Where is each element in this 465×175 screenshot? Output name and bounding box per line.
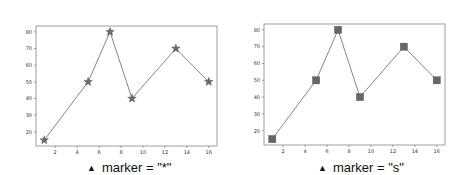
caption-right-text: marker = "s" bbox=[333, 160, 404, 175]
x-tick-label: 2 bbox=[54, 149, 57, 155]
y-tick-label: 70 bbox=[254, 43, 260, 49]
square-marker-icon bbox=[334, 26, 341, 33]
x-tick-label: 10 bbox=[140, 149, 146, 155]
x-tick-label: 8 bbox=[347, 148, 350, 154]
caption-right: ▲marker = "s" bbox=[318, 160, 404, 175]
square-marker-icon bbox=[400, 43, 407, 50]
x-tick-label: 10 bbox=[368, 148, 374, 154]
triangle-bullet-icon: ▲ bbox=[87, 163, 96, 173]
square-marker-icon bbox=[269, 136, 276, 143]
charts: 2468101214162030405060708024681012141620… bbox=[0, 0, 465, 175]
y-tick-label: 20 bbox=[26, 129, 32, 135]
x-tick-label: 12 bbox=[390, 148, 396, 154]
y-tick-label: 50 bbox=[26, 79, 32, 85]
x-tick-label: 8 bbox=[119, 149, 122, 155]
y-tick-label: 30 bbox=[26, 112, 32, 118]
chart-square-marker: 24681012141620304050607080 bbox=[254, 24, 445, 154]
caption-left-text: marker = "*" bbox=[102, 160, 172, 175]
square-marker-icon bbox=[433, 77, 440, 84]
y-tick-label: 60 bbox=[26, 62, 32, 68]
y-tick-label: 40 bbox=[254, 94, 260, 100]
y-tick-label: 80 bbox=[254, 27, 260, 33]
y-tick-label: 60 bbox=[254, 60, 260, 66]
x-tick-label: 4 bbox=[304, 148, 307, 154]
x-tick-label: 4 bbox=[76, 149, 79, 155]
x-tick-label: 16 bbox=[434, 148, 440, 154]
y-tick-label: 80 bbox=[26, 29, 32, 35]
caption-left: ▲marker = "*" bbox=[87, 160, 171, 175]
square-marker-icon bbox=[356, 94, 363, 101]
plot-frame bbox=[264, 24, 445, 145]
y-tick-label: 40 bbox=[26, 95, 32, 101]
x-tick-label: 12 bbox=[162, 149, 168, 155]
chart-star-marker: 24681012141620304050607080 bbox=[26, 26, 217, 155]
x-tick-label: 14 bbox=[184, 149, 190, 155]
x-tick-label: 6 bbox=[325, 148, 328, 154]
triangle-bullet-icon: ▲ bbox=[318, 163, 327, 173]
square-marker-icon bbox=[313, 77, 320, 84]
x-tick-label: 16 bbox=[206, 149, 212, 155]
y-tick-label: 70 bbox=[26, 45, 32, 51]
x-tick-label: 6 bbox=[97, 149, 100, 155]
plot-frame bbox=[36, 26, 217, 146]
x-tick-label: 2 bbox=[282, 148, 285, 154]
x-tick-label: 14 bbox=[412, 148, 418, 154]
y-tick-label: 30 bbox=[254, 111, 260, 117]
y-tick-label: 50 bbox=[254, 77, 260, 83]
y-tick-label: 20 bbox=[254, 128, 260, 134]
